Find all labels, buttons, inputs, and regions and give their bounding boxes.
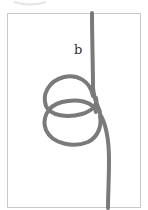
figure-label: b <box>74 42 82 57</box>
rope-upper-loop <box>45 76 97 116</box>
rope-lower-loop <box>45 100 101 144</box>
rope-knot-illustration <box>0 0 148 210</box>
